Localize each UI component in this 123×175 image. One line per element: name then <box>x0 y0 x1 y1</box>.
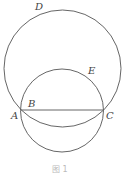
label-E: E <box>87 65 96 76</box>
small-circle <box>21 69 104 152</box>
label-C: C <box>106 110 114 121</box>
label-B: B <box>27 98 35 109</box>
label-A: A <box>10 110 18 121</box>
figure-caption: 图 1 <box>52 165 68 174</box>
geometry-figure: D E B A C 图 1 <box>0 0 123 175</box>
label-D: D <box>34 1 43 12</box>
